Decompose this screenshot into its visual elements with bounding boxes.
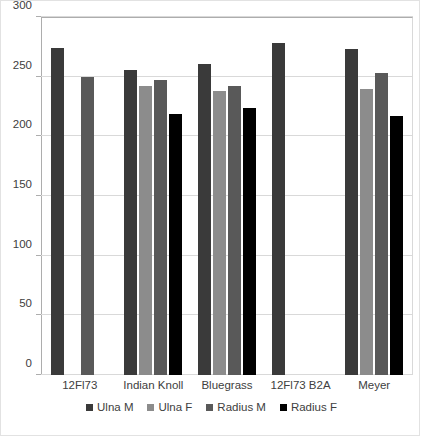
legend-swatch-icon	[86, 404, 93, 411]
bar[interactable]	[198, 64, 211, 375]
bar-group	[117, 17, 191, 375]
bar-group	[337, 17, 411, 375]
legend-label: Ulna M	[97, 401, 133, 413]
bar[interactable]	[124, 70, 137, 375]
y-axis-tick-label: 100	[13, 238, 32, 250]
legend-swatch-icon	[147, 404, 154, 411]
bar[interactable]	[360, 89, 373, 375]
legend-label: Radius F	[291, 401, 337, 413]
bar[interactable]	[228, 86, 241, 375]
chart-frame: 050100150200250300 12Fl73Indian KnollBlu…	[0, 0, 420, 436]
bar[interactable]	[154, 80, 167, 375]
x-axis-category-label: 12Fl73 B2A	[264, 379, 338, 391]
y-axis-tick-label: 300	[13, 0, 32, 11]
y-axis-tick-label: 250	[13, 59, 32, 71]
x-axis-category-label: Indian Knoll	[117, 379, 191, 391]
legend-item[interactable]: Ulna F	[147, 401, 192, 413]
y-axis-tick-label: 200	[13, 118, 32, 130]
bar[interactable]	[169, 114, 182, 375]
bar[interactable]	[51, 48, 64, 375]
bar-series-container	[41, 17, 413, 375]
y-axis-tick-label: 150	[13, 178, 32, 190]
x-axis-labels: 12Fl73Indian KnollBluegrass12Fl73 B2AMey…	[41, 379, 413, 391]
legend-label: Ulna F	[158, 401, 192, 413]
bar-group	[190, 17, 264, 375]
legend-swatch-icon	[206, 404, 213, 411]
legend-item[interactable]: Radius M	[206, 401, 266, 413]
bar[interactable]	[213, 91, 226, 375]
bar[interactable]	[81, 77, 94, 375]
y-axis-tick-label: 0	[26, 357, 32, 369]
bar[interactable]	[139, 86, 152, 375]
chart-legend: Ulna MUlna FRadius MRadius F	[1, 401, 421, 413]
bar-group	[264, 17, 338, 375]
legend-item[interactable]: Ulna M	[86, 401, 133, 413]
x-axis-category-label: Meyer	[337, 379, 411, 391]
plot-wrapper: 050100150200250300	[41, 17, 413, 375]
legend-swatch-icon	[280, 404, 287, 411]
bar[interactable]	[390, 116, 403, 375]
legend-label: Radius M	[217, 401, 266, 413]
bar[interactable]	[345, 49, 358, 375]
bar-group	[43, 17, 117, 375]
bar[interactable]	[243, 108, 256, 375]
x-axis-category-label: 12Fl73	[43, 379, 117, 391]
x-axis-category-label: Bluegrass	[190, 379, 264, 391]
y-axis-tick-label: 50	[19, 297, 32, 309]
bar[interactable]	[272, 43, 285, 375]
bar[interactable]	[375, 73, 388, 375]
legend-item[interactable]: Radius F	[280, 401, 337, 413]
